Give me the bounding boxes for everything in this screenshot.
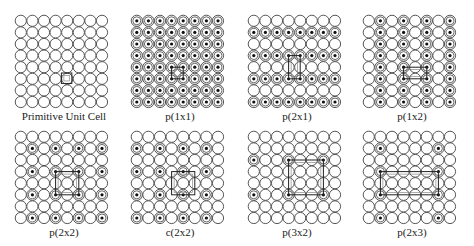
adsorbate-dot [402,42,405,45]
substrate-atom [38,131,49,142]
substrate-atom [410,143,421,154]
adsorbate-dot [310,31,313,34]
substrate-atom [27,38,38,49]
substrate-atom [73,96,84,107]
substrate-atom [212,201,223,212]
adsorbate-dot [205,147,208,150]
substrate-atom [96,15,107,26]
substrate-atom [283,131,294,142]
substrate-atom [50,154,61,165]
panel-label: p(2x2) [4,226,124,238]
substrate-atom [433,85,444,96]
adsorbate-dot [216,19,219,22]
substrate-atom [306,38,317,49]
substrate-atom [318,62,329,73]
substrate-atom [62,38,73,49]
substrate-atom [73,154,84,165]
adsorbate-dot [264,54,267,57]
substrate-atom [212,178,223,189]
substrate-atom [386,212,397,223]
adsorbate-dot [158,147,161,150]
adsorbate-dot [205,89,208,92]
adsorbate-dot [135,66,138,69]
substrate-atom [62,154,73,165]
substrate-atom [85,15,96,26]
substrate-atom [248,143,259,154]
adsorbate-dot [379,216,382,219]
adsorbate-dot [205,193,208,196]
substrate-atom [363,62,374,73]
adsorbate-dot [448,77,451,80]
substrate-atom [85,166,96,177]
adsorbate-dot [182,89,185,92]
substrate-atom [62,73,73,84]
substrate-atom [15,38,26,49]
substrate-atom [398,131,409,142]
adsorbate-dot [193,54,196,57]
atom-lattice [362,130,457,225]
adsorbate-dot [170,42,173,45]
adsorbate-dot [182,31,185,34]
substrate-atom [306,166,317,177]
adsorbate-dot [158,77,161,80]
substrate-atom [410,178,421,189]
adsorbate-dot [135,170,138,173]
atom-lattice [247,130,342,225]
substrate-atom [62,143,73,154]
adsorbate-dot [100,170,103,173]
substrate-atom [50,50,61,61]
adsorbate-dot [216,100,219,103]
substrate-atom [329,85,340,96]
substrate-atom [260,85,271,96]
adsorbate-dot [77,216,80,219]
unit-cell-outline [289,160,324,195]
substrate-atom [50,85,61,96]
adsorbate-dot [158,54,161,57]
substrate-atom [131,154,142,165]
adsorbate-dot [402,54,405,57]
substrate-atom [201,131,212,142]
substrate-atom [433,201,444,212]
substrate-atom [143,143,154,154]
substrate-atom [96,73,107,84]
adsorbate-dot [31,193,34,196]
substrate-atom [398,201,409,212]
substrate-atom [329,62,340,73]
substrate-atom [131,178,142,189]
substrate-atom [38,143,49,154]
substrate-atom [306,131,317,142]
adsorbate-dot [193,19,196,22]
substrate-atom [271,154,282,165]
adsorbate-dot [448,42,451,45]
substrate-atom [212,212,223,223]
substrate-atom [444,131,455,142]
atom-lattice [14,130,109,225]
substrate-atom [329,166,340,177]
substrate-atom [212,131,223,142]
substrate-atom [329,178,340,189]
substrate-atom [73,62,84,73]
substrate-atom [329,212,340,223]
adsorbate-dot [135,216,138,219]
adsorbate-dot [333,100,336,103]
adsorbate-dot [182,216,185,219]
adsorbate-dot [170,19,173,22]
substrate-atom [62,201,73,212]
substrate-atom [318,201,329,212]
adsorbate-dot [158,170,161,173]
adsorbate-dot [448,54,451,57]
adsorbate-dot [77,147,80,150]
substrate-atom [410,15,421,26]
substrate-atom [38,166,49,177]
substrate-atom [363,166,374,177]
substrate-atom [271,178,282,189]
substrate-atom [50,96,61,107]
substrate-atom [260,201,271,212]
adsorbate-dot [147,31,150,34]
substrate-atom [329,201,340,212]
substrate-atom [363,38,374,49]
adsorbate-dot [100,147,103,150]
adsorbate-dot [310,54,313,57]
adsorbate-dot [275,54,278,57]
substrate-atom [363,201,374,212]
